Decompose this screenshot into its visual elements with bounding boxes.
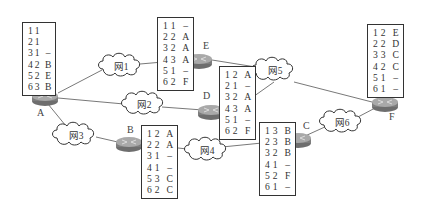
router-b-icon xyxy=(116,137,142,152)
table-row: 61– xyxy=(265,181,292,192)
table-row: 41– xyxy=(265,159,292,170)
table-row: 32B xyxy=(265,147,292,158)
table-row: 62F xyxy=(163,76,190,87)
router-a-label: A xyxy=(37,107,44,118)
net6-label: 网6 xyxy=(335,115,350,129)
routing-table-b: 12A 22A 31– 41– 53C 62C xyxy=(141,125,178,199)
link-net2-d xyxy=(162,107,203,110)
routing-table-a: 11 21 31– 42B 52E 63B xyxy=(22,22,56,96)
table-row: 12A xyxy=(147,128,174,139)
table-row: 52F xyxy=(265,170,292,181)
net2-label: 网2 xyxy=(137,97,152,111)
link-a-net1 xyxy=(58,70,102,93)
router-b-label: B xyxy=(127,124,134,135)
links xyxy=(48,60,377,149)
table-row: 32A xyxy=(163,42,190,53)
table-row: 42C xyxy=(373,61,400,72)
table-row: 23B xyxy=(265,136,292,147)
table-row: 51– xyxy=(163,65,190,76)
router-d-label: D xyxy=(203,90,210,101)
table-row: 31– xyxy=(28,47,52,58)
table-row: 43A xyxy=(225,103,252,114)
router-f-icon xyxy=(372,97,398,112)
link-net5-f xyxy=(294,82,372,102)
table-row: 61– xyxy=(373,83,400,94)
table-row: 62C xyxy=(147,184,174,195)
table-row: 12A xyxy=(225,69,252,80)
router-c-label: C xyxy=(303,120,310,131)
link-a-net3 xyxy=(48,104,66,126)
table-row: 13B xyxy=(265,125,292,136)
table-row: 11– xyxy=(163,20,190,31)
table-row: 12E xyxy=(373,27,400,38)
table-row: 21– xyxy=(225,80,252,91)
table-row: 62F xyxy=(225,125,252,136)
table-row: 32A xyxy=(225,91,252,102)
table-row: 51– xyxy=(373,72,400,83)
table-row: 43A xyxy=(163,54,190,65)
table-row: 52E xyxy=(28,70,52,81)
table-row: 22A xyxy=(147,139,174,150)
network-topology-diagram xyxy=(0,0,423,214)
table-row: 11 xyxy=(28,25,52,36)
table-row: 33C xyxy=(373,49,400,60)
table-row: 31– xyxy=(147,150,174,161)
table-row: 22A xyxy=(163,31,190,42)
table-row: 41– xyxy=(147,162,174,173)
table-row: 21 xyxy=(28,36,52,47)
table-row: 22D xyxy=(373,38,400,49)
table-row: 63B xyxy=(28,81,52,92)
routing-table-f: 12E 22D 33C 42C 51– 61– xyxy=(367,24,404,98)
table-row: 42B xyxy=(28,59,52,70)
table-row: 51– xyxy=(225,114,252,125)
net3-label: 网3 xyxy=(69,128,84,142)
router-f-label: F xyxy=(389,111,395,122)
routing-table-c: 13B 23B 32B 41– 52F 61– xyxy=(259,122,296,196)
link-a-net2 xyxy=(58,98,124,104)
net5-label: 网5 xyxy=(268,63,283,77)
net1-label: 网1 xyxy=(114,59,129,73)
net4-label: 网4 xyxy=(200,143,215,157)
routing-table-d: 12A 21– 32A 43A 51– 62F xyxy=(219,66,256,140)
routing-table-e: 11– 22A 32A 43A 51– 62F xyxy=(157,17,194,91)
router-e-label: E xyxy=(203,40,209,51)
table-row: 53C xyxy=(147,173,174,184)
